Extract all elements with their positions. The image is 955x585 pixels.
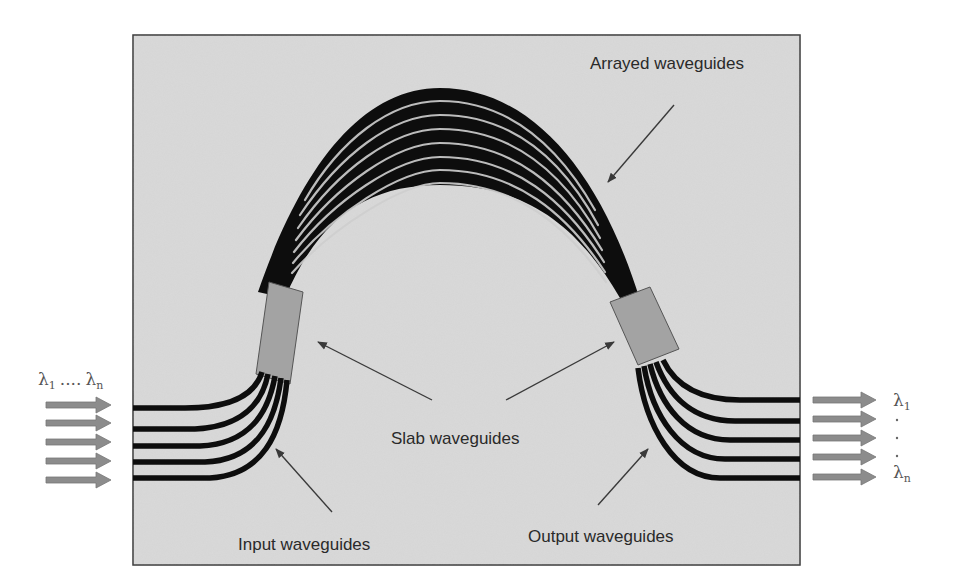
slab-waveguides-label: Slab waveguides <box>391 429 520 448</box>
input-waveguides-label: Input waveguides <box>238 535 370 554</box>
output-arrow-icon <box>813 392 876 408</box>
arrayed-waveguides-label: Arrayed waveguides <box>590 54 744 73</box>
input-arrow-icon <box>46 453 111 469</box>
output-arrow-icon <box>813 430 876 446</box>
output-arrow-icon <box>813 449 876 465</box>
input-arrow-icon <box>46 397 111 413</box>
output-lambda-last-label: λn <box>893 462 911 485</box>
output-vertical-ellipsis <box>896 419 898 457</box>
input-arrow-icon <box>46 472 111 488</box>
input-arrow-icon <box>46 415 111 431</box>
output-waveguides-label: Output waveguides <box>528 527 674 546</box>
output-arrow-icon <box>813 411 876 427</box>
input-wavelength-label: λ1....λn <box>38 369 103 392</box>
output-lambda-first-label: λ1 <box>893 390 911 413</box>
input-arrow-icon <box>46 434 111 450</box>
output-arrow-icon <box>813 469 876 485</box>
output-wavelength-arrows <box>813 392 876 485</box>
awg-diagram: Arrayed waveguides Slab waveguides Input… <box>0 0 955 585</box>
input-wavelength-arrows <box>46 397 111 488</box>
